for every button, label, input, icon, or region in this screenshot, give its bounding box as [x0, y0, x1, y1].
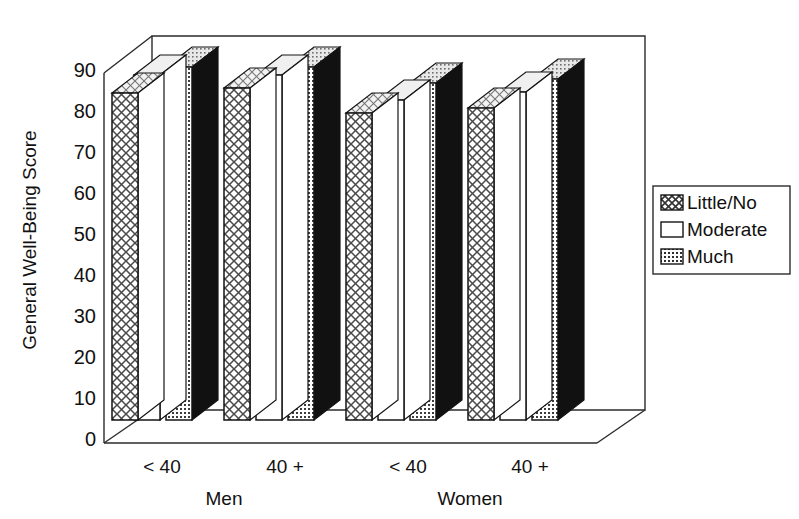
- x-axis-category-labels: < 40 40 + < 40 40 +: [143, 456, 549, 477]
- bar-side-face: [558, 59, 584, 420]
- legend-swatch-dot-grid-icon: [661, 249, 683, 264]
- bar-side-face: [138, 73, 164, 420]
- bar-side-face: [494, 88, 520, 420]
- legend: Little/No Moderate Much: [653, 186, 790, 274]
- bar-front-face: [112, 93, 138, 420]
- bar-front-face: [224, 88, 250, 420]
- y-tick-label: 60: [74, 182, 96, 204]
- y-tick-label: 10: [74, 387, 96, 409]
- legend-label: Moderate: [687, 219, 767, 240]
- bar-group-men-40plus: [224, 47, 340, 420]
- floor-right-depth-edge: [597, 410, 645, 443]
- bar-littleno-men-under40: [112, 73, 164, 420]
- bar-side-face: [250, 68, 276, 420]
- x-group-label-men: Men: [206, 488, 243, 509]
- y-tick-label: 0: [85, 428, 96, 450]
- y-tick-label: 20: [74, 346, 96, 368]
- bar-side-face: [314, 47, 340, 420]
- x-group-label-women: Women: [437, 488, 502, 509]
- bar-side-face: [282, 55, 308, 420]
- legend-item-much[interactable]: Much: [661, 246, 733, 267]
- bar-side-face: [436, 63, 462, 420]
- y-tick-label: 50: [74, 223, 96, 245]
- legend-item-little-no[interactable]: Little/No: [661, 192, 757, 213]
- x-tick-label: < 40: [143, 456, 181, 477]
- y-tick-label: 30: [74, 305, 96, 327]
- bar-side-face: [372, 93, 398, 420]
- bar-side-face: [404, 80, 430, 420]
- general-well-being-bar-chart: 90 80 70 60 50 40 30 20 10 0 General Wel…: [0, 0, 799, 519]
- bar-group-women-40plus: [468, 59, 584, 420]
- x-tick-label: < 40: [389, 456, 427, 477]
- y-axis-tick-labels: 90 80 70 60 50 40 30 20 10 0: [74, 59, 96, 450]
- y-tick-label: 90: [74, 59, 96, 81]
- y-tick-label: 80: [74, 100, 96, 122]
- bar-littleno-men-40plus: [224, 68, 276, 420]
- bar-front-face: [468, 108, 494, 420]
- bar-group-men-under40: [112, 47, 218, 420]
- chart-canvas: 90 80 70 60 50 40 30 20 10 0 General Wel…: [0, 0, 799, 519]
- bar-side-face: [526, 72, 552, 420]
- legend-label: Much: [687, 246, 733, 267]
- legend-swatch-white-icon: [661, 222, 683, 237]
- legend-label: Little/No: [687, 192, 757, 213]
- legend-item-moderate[interactable]: Moderate: [661, 219, 767, 240]
- y-tick-label: 40: [74, 264, 96, 286]
- bar-littleno-women-under40: [346, 93, 398, 420]
- bar-side-face: [192, 47, 218, 420]
- legend-swatch-cross-hatch-icon: [661, 195, 683, 210]
- y-tick-label: 70: [74, 141, 96, 163]
- x-tick-label: 40 +: [266, 456, 304, 477]
- bar-front-face: [346, 113, 372, 420]
- x-axis-group-labels: Men Women: [206, 488, 503, 509]
- bar-littleno-women-40plus: [468, 88, 520, 420]
- bar-group-women-under40: [346, 63, 462, 420]
- x-tick-label: 40 +: [511, 456, 549, 477]
- y-axis-title: General Well-Being Score: [19, 130, 40, 349]
